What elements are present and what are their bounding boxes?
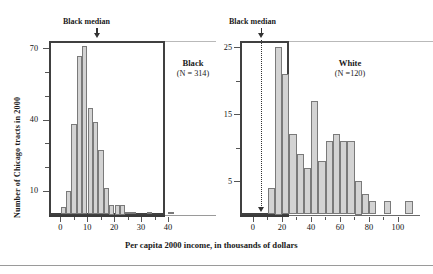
panel-black: Black median 70 40 10 (0, 0, 216, 274)
x-tick-minor-35 (155, 217, 156, 220)
bar-right-70 (355, 181, 362, 215)
y-tick-label-5: 5 (216, 177, 232, 186)
x-tick-minor-25 (128, 217, 129, 220)
top-rule-right (289, 41, 433, 42)
x-tick-80 (369, 217, 370, 222)
bar-right-50 (326, 141, 333, 215)
x-tick-label-80: 80 (359, 223, 379, 232)
bar-right-15 (275, 47, 282, 215)
legend-white-n: (N =120) (327, 69, 373, 80)
y-tick-15 (234, 114, 240, 115)
y-tick-25 (234, 47, 240, 48)
x-tick-label-20: 20 (104, 223, 124, 232)
legend-black-n: (N = 314) (172, 69, 214, 80)
y-tick-minor-50 (45, 96, 49, 97)
bar-right-30 (297, 154, 304, 214)
y-tick-label-10: 10 (22, 186, 38, 195)
bar-left-15 (168, 212, 173, 214)
legend-white: White (N =120) (327, 58, 373, 80)
y-tick-minor-20 (236, 81, 240, 82)
x-tick-30 (141, 217, 142, 222)
black-median-arrow-right (258, 33, 264, 38)
bar-right-90 (384, 201, 391, 214)
top-rule-left (165, 41, 216, 42)
y-tick-40 (43, 120, 49, 121)
bar-right-75 (362, 194, 369, 214)
y-tick-minor-60 (45, 72, 49, 73)
x-tick-minor-90 (383, 217, 384, 220)
legend-black-title: Black (172, 58, 214, 69)
x-tick-minor-30 (296, 217, 297, 220)
x-tick-40 (168, 217, 169, 222)
y-tick-label-70: 70 (22, 44, 38, 53)
panel-white: Black median 25 15 5 (216, 0, 433, 274)
legend-white-title: White (327, 58, 373, 69)
x-tick-label-0: 0 (243, 223, 263, 232)
y-tick-label-15: 15 (216, 110, 232, 119)
x-tick-0 (253, 217, 254, 222)
y-tick-minor-10 (236, 148, 240, 149)
x-tick-20 (282, 217, 283, 222)
y-tick-label-40: 40 (22, 115, 38, 124)
x-axis-line-left-ext (165, 215, 216, 216)
bar-right-20 (282, 74, 289, 215)
y-tick-label-25: 25 (216, 43, 232, 52)
bar-right-55 (333, 134, 340, 214)
x-tick-20 (114, 217, 115, 222)
y-tick-70 (43, 48, 49, 49)
bar-right-60 (340, 141, 347, 215)
x-tick-label-60: 60 (330, 223, 350, 232)
x-tick-label-0: 0 (50, 223, 70, 232)
x-tick-minor-5 (74, 217, 75, 220)
x-tick-label-40: 40 (301, 223, 321, 232)
black-median-label-left: Black median (63, 17, 110, 26)
legend-black: Black (N = 314) (172, 58, 214, 80)
x-axis-title: Per capita 2000 income, in thousands of … (125, 240, 298, 250)
bar-right-10 (268, 188, 275, 215)
x-tick-minor-50 (325, 217, 326, 220)
x-tick-40 (311, 217, 312, 222)
x-tick-60 (340, 217, 341, 222)
bar-right-80 (369, 201, 376, 214)
bar-right-25 (289, 134, 296, 214)
x-tick-0 (60, 217, 61, 222)
x-tick-100 (398, 217, 399, 222)
x-tick-label-20: 20 (272, 223, 292, 232)
x-tick-minor-10 (267, 217, 268, 220)
figure-root: Number of Chicago tracts in 2000 Black m… (0, 0, 433, 274)
y-tick-10 (43, 191, 49, 192)
bar-right-35 (304, 168, 311, 215)
x-tick-label-30: 30 (131, 223, 151, 232)
x-tick-label-100: 100 (387, 223, 409, 232)
y-tick-minor-30 (45, 143, 49, 144)
bar-right-45 (318, 161, 325, 215)
y-tick-minor-20 (45, 167, 49, 168)
bottom-rule (0, 265, 433, 266)
bar-right-105 (405, 201, 412, 214)
x-tick-minor-15 (101, 217, 102, 220)
black-median-label-right: Black median (229, 17, 276, 26)
x-tick-label-40: 40 (158, 223, 178, 232)
bar-right-40 (311, 101, 318, 215)
y-tick-5 (234, 181, 240, 182)
x-tick-10 (87, 217, 88, 222)
x-axis-line-left (49, 215, 165, 217)
x-tick-label-10: 10 (77, 223, 97, 232)
black-median-arrow-left (94, 33, 100, 38)
x-tick-minor-70 (354, 217, 355, 220)
bar-right-65 (347, 141, 354, 215)
